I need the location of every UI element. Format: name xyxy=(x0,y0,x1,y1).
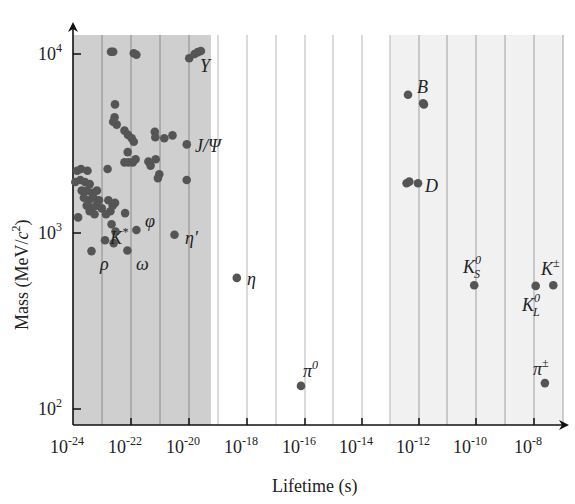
label-jpsi: J/Ψ xyxy=(195,136,223,156)
data-point xyxy=(541,379,550,388)
data-point xyxy=(549,281,558,290)
data-point xyxy=(74,213,83,222)
svg-text:10-16: 10-16 xyxy=(282,434,316,457)
svg-text:10-10: 10-10 xyxy=(453,434,487,457)
label-D: D xyxy=(424,176,438,196)
svg-text:10-8: 10-8 xyxy=(514,434,542,457)
data-point xyxy=(102,210,111,219)
data-point xyxy=(112,120,121,129)
data-point xyxy=(131,155,140,164)
data-point xyxy=(132,51,141,60)
data-point xyxy=(297,382,306,391)
data-point xyxy=(111,199,120,208)
data-point xyxy=(154,174,163,183)
meson-lifetime-mass-chart: 104 103 102 10-24 10-22 10-20 10-18 10-1… xyxy=(0,0,575,504)
data-point xyxy=(170,231,179,240)
label-KL: K0L xyxy=(521,291,540,319)
data-point xyxy=(121,209,130,218)
data-point xyxy=(109,47,118,56)
data-point xyxy=(233,274,242,283)
svg-text:10-14: 10-14 xyxy=(339,434,373,457)
x-tick-labels: 10-24 10-22 10-20 10-18 10-16 10-14 10-1… xyxy=(50,434,542,457)
svg-text:10-24: 10-24 xyxy=(50,434,84,457)
data-point xyxy=(420,100,429,109)
label-rho: ρ xyxy=(99,254,109,274)
label-KS: K0S xyxy=(462,253,481,281)
data-point xyxy=(151,155,160,164)
svg-text:10-20: 10-20 xyxy=(166,434,200,457)
data-point xyxy=(531,282,540,291)
y-axis-title: Mass (MeV/c2) xyxy=(9,220,33,331)
y-tick-label-1e2: 102 xyxy=(38,396,62,419)
data-point xyxy=(123,148,132,157)
data-point xyxy=(414,179,423,188)
data-point xyxy=(183,140,192,149)
svg-text:10-18: 10-18 xyxy=(224,434,258,457)
y-tick-label-1e4: 104 xyxy=(38,41,62,64)
data-point xyxy=(101,236,110,245)
data-point xyxy=(404,90,413,99)
data-point xyxy=(111,100,120,109)
data-point xyxy=(132,226,141,235)
data-point xyxy=(123,246,132,255)
data-point xyxy=(168,131,177,140)
svg-text:10-22: 10-22 xyxy=(108,434,142,457)
data-point xyxy=(110,113,119,122)
data-point xyxy=(197,47,206,56)
data-point xyxy=(83,166,92,175)
svg-text:10-12: 10-12 xyxy=(396,434,430,457)
data-point xyxy=(103,165,112,174)
data-point xyxy=(160,134,169,143)
data-point xyxy=(182,176,191,185)
label-phi: φ xyxy=(145,211,155,231)
data-point xyxy=(405,177,414,186)
data-point xyxy=(151,133,160,142)
label-etaprime: η′ xyxy=(185,228,199,248)
label-omega: ω xyxy=(136,254,149,274)
label-eta: η xyxy=(247,269,256,289)
label-B: B xyxy=(417,77,428,97)
x-axis-title: Lifetime (s) xyxy=(272,476,357,497)
y-tick-label-1e3: 103 xyxy=(38,220,62,243)
data-point xyxy=(130,138,139,147)
data-point xyxy=(87,247,96,256)
data-point xyxy=(90,210,99,219)
label-pi0: π0 xyxy=(303,358,318,381)
data-point xyxy=(470,281,479,290)
